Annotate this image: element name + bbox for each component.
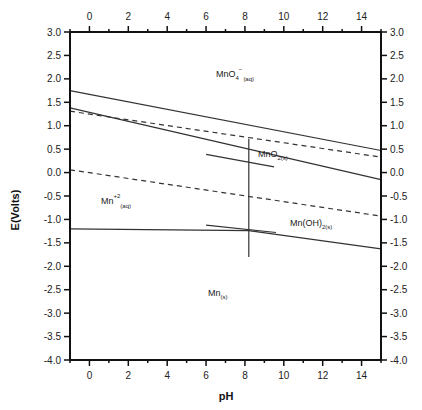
x-tick-label: 10 — [278, 11, 290, 22]
y-tick-label: -4.0 — [390, 355, 408, 366]
y-tick-label: -0.5 — [44, 191, 62, 202]
y-tick-label: -1.5 — [390, 237, 408, 248]
y-tick-label: -0.5 — [390, 191, 408, 202]
y-tick-label: -4.0 — [44, 355, 62, 366]
x-tick-label: 0 — [87, 11, 93, 22]
y-tick-label: 0.5 — [390, 144, 404, 155]
series-line — [70, 108, 381, 180]
region-label-mn: Mn(s) — [208, 288, 228, 300]
x-tick-label: 2 — [126, 370, 132, 381]
y-tick-label: 0.5 — [47, 144, 61, 155]
series-line — [206, 225, 276, 232]
x-tick-label: 4 — [164, 11, 170, 22]
plot-lines — [70, 91, 381, 257]
y-tick-label: -3.5 — [390, 331, 408, 342]
y-axis-left: 3.02.52.01.51.00.50.0-0.5-1.0-1.5-2.0-2.… — [44, 27, 70, 366]
y-tick-label: -2.5 — [390, 284, 408, 295]
x-axis-bottom: 02468101214 — [70, 360, 381, 381]
y-tick-label: 0.0 — [390, 167, 404, 178]
x-tick-label: 8 — [242, 370, 248, 381]
x-tick-label: 8 — [242, 11, 248, 22]
series-line — [70, 91, 381, 151]
region-label-mno4: MnO4−(aq) — [216, 66, 254, 82]
y-axis-right: 3.02.52.01.51.00.50.0-0.5-1.0-1.5-2.0-2.… — [381, 27, 408, 366]
region-label-mno2: MnO2(s) — [258, 149, 288, 161]
y-tick-label: 1.5 — [47, 97, 61, 108]
x-tick-label: 14 — [356, 370, 368, 381]
y-tick-label: 1.5 — [390, 97, 404, 108]
y-tick-label: -2.0 — [390, 261, 408, 272]
y-tick-label: -1.5 — [44, 237, 62, 248]
y-tick-label: 3.0 — [390, 27, 404, 38]
y-tick-label: 1.0 — [390, 120, 404, 131]
series-line — [249, 231, 381, 249]
series-line — [70, 229, 249, 231]
y-tick-label: -3.0 — [390, 308, 408, 319]
x-tick-label: 4 — [164, 370, 170, 381]
y-tick-label: -2.0 — [44, 261, 62, 272]
x-axis-title: pH — [219, 390, 234, 402]
y-tick-label: 2.5 — [47, 50, 61, 61]
x-axis-top: 02468101214 — [70, 11, 381, 32]
x-tick-label: 6 — [203, 370, 209, 381]
x-tick-label: 14 — [356, 11, 368, 22]
y-tick-label: -1.0 — [390, 214, 408, 225]
y-axis-title: E(Volts) — [9, 189, 21, 230]
region-label-mn2: Mn+2(aq) — [101, 193, 131, 209]
y-tick-label: 0.0 — [47, 167, 61, 178]
x-tick-label: 10 — [278, 370, 290, 381]
y-tick-label: 2.0 — [390, 73, 404, 84]
y-tick-label: -3.5 — [44, 331, 62, 342]
region-label-mnoh2: Mn(OH)2(s) — [290, 218, 332, 230]
y-tick-label: -2.5 — [44, 284, 62, 295]
x-tick-label: 6 — [203, 11, 209, 22]
y-tick-label: 2.5 — [390, 50, 404, 61]
y-tick-label: 1.0 — [47, 120, 61, 131]
x-tick-label: 12 — [317, 11, 329, 22]
x-tick-label: 2 — [126, 11, 132, 22]
x-tick-label: 12 — [317, 370, 329, 381]
pourbaix-diagram: 02468101214 02468101214 3.02.52.01.51.00… — [0, 0, 422, 410]
x-tick-label: 0 — [87, 370, 93, 381]
y-tick-label: 2.0 — [47, 73, 61, 84]
y-tick-label: -3.0 — [44, 308, 62, 319]
y-tick-label: -1.0 — [44, 214, 62, 225]
y-tick-label: 3.0 — [47, 27, 61, 38]
